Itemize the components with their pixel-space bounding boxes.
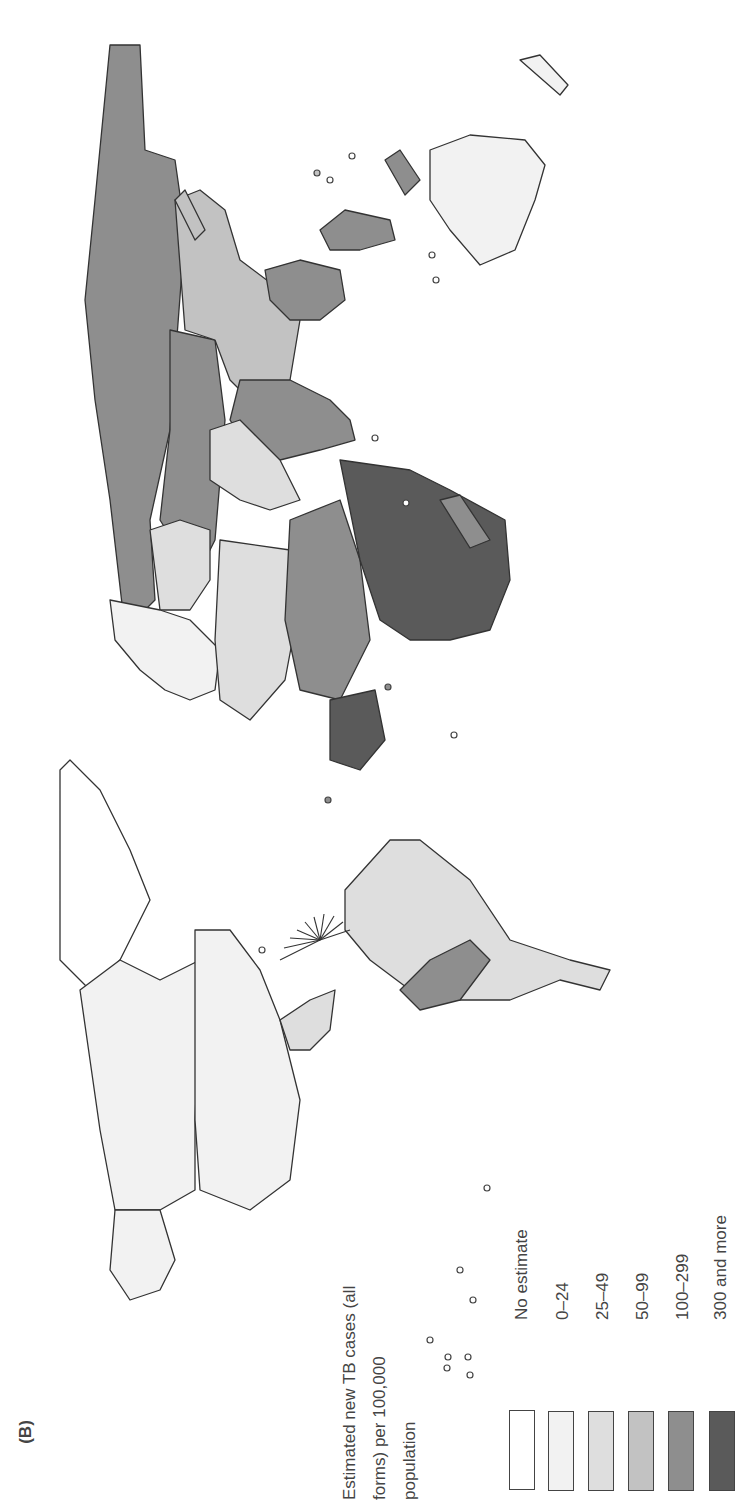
legend-swatch-300-plus [709, 1411, 735, 1491]
legend-label-50-99: 50–99 [633, 1273, 653, 1320]
region-west-africa-high [330, 690, 385, 770]
legend-swatch-25-49 [588, 1411, 614, 1491]
legend-swatch-50-99 [628, 1411, 654, 1491]
caribbean-callouts [280, 914, 350, 960]
legend-label-no-estimate: No estimate [512, 1229, 532, 1320]
region-canada [80, 960, 200, 1210]
legend-label-300-plus: 300 and more [711, 1215, 731, 1320]
region-greenland [60, 760, 150, 990]
region-new-zealand [520, 55, 568, 95]
region-alaska [110, 1210, 175, 1300]
region-philippines [385, 150, 420, 195]
legend-swatch-no-estimate [509, 1410, 535, 1490]
region-indonesia [320, 210, 395, 250]
legend-label-100-299: 100–299 [673, 1254, 693, 1320]
legend-title-line-2: forms) per 100,000 [370, 1356, 390, 1500]
legend-label-0-24: 0–24 [553, 1282, 573, 1320]
region-usa [195, 930, 300, 1210]
legend-label-25-49: 25–49 [593, 1273, 613, 1320]
legend-swatch-0-24 [548, 1411, 574, 1491]
region-mexico [280, 990, 335, 1050]
region-australia [430, 135, 545, 265]
region-western-europe [110, 600, 220, 700]
legend-title-line-3: population [400, 1422, 420, 1500]
region-eastern-europe [150, 520, 210, 610]
legend-title-line-1: Estimated new TB cases (all [340, 1286, 360, 1500]
legend-swatch-100-299 [668, 1411, 694, 1491]
